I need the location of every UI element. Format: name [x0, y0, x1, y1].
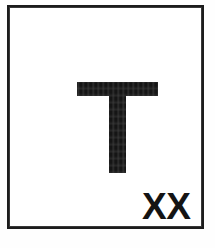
corner-mark-xx: XX [142, 190, 206, 228]
letter-t-glyph [70, 77, 165, 177]
letter-t-stem [109, 82, 126, 173]
image-canvas: XX [0, 0, 215, 248]
border-rectangle: XX [7, 5, 204, 229]
